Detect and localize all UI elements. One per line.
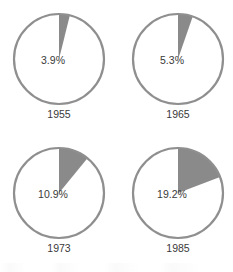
- pie-value-label-1973: 10.9%: [12, 188, 106, 200]
- pie-chart-1955: 3.9% 1955: [12, 12, 106, 106]
- pie-chart-panel-1985: 19.2% 1985: [131, 146, 231, 264]
- pie-value-label-1965: 5.3%: [131, 54, 225, 66]
- pie-chart-1965: 5.3% 1965: [131, 12, 225, 106]
- pie-chart-1973: 10.9% 1973: [12, 146, 106, 240]
- pie-chart-panel-1965: 5.3% 1965: [131, 12, 231, 130]
- page-edge-artifact: [0, 263, 233, 272]
- pie-value-label-text-1985: 19.2%: [157, 188, 187, 200]
- pie-value-label-text-1965: 5.3%: [160, 54, 184, 66]
- pie-value-label-text-1955: 3.9%: [41, 54, 65, 66]
- pie-year-label-1955: 1955: [12, 108, 106, 120]
- pie-year-label-1985: 1985: [131, 242, 225, 254]
- pie-value-label-text-1973: 10.9%: [38, 188, 68, 200]
- pie-chart-panel-1955: 3.9% 1955: [12, 12, 112, 130]
- pie-chart-1985: 19.2% 1985: [131, 146, 225, 240]
- pie-year-label-1973: 1973: [12, 242, 106, 254]
- pie-chart-panel-1973: 10.9% 1973: [12, 146, 112, 264]
- pie-value-label-1985: 19.2%: [131, 188, 225, 200]
- pie-chart-figure: 3.9% 1955 5.3% 1965 10.9% 1973: [0, 0, 233, 272]
- pie-year-label-1965: 1965: [131, 108, 225, 120]
- pie-value-label-1955: 3.9%: [12, 54, 106, 66]
